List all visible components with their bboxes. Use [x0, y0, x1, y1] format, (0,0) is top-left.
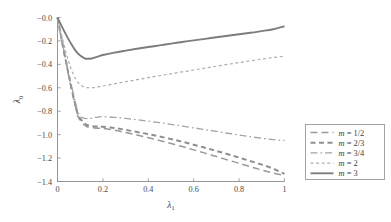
legend-label-2: m = 3/4 — [339, 149, 365, 158]
legend-label-value-2: = 3/4 — [345, 149, 365, 158]
y-tick-label-6: −1.2 — [37, 154, 52, 163]
legend-label-value-1: = 2/3 — [345, 139, 365, 148]
y-axis-title: λ0 — [12, 96, 24, 104]
legend-label-value-3: = 2 — [345, 159, 358, 168]
y-tick-label-0: −0.0 — [37, 14, 52, 23]
axis-ticks — [58, 18, 285, 182]
y-tick-label-5: −1.0 — [37, 131, 52, 140]
x-tick-label-2: 0.4 — [143, 185, 153, 194]
legend-label-1: m = 2/3 — [339, 139, 365, 148]
x-tick-label-4: 0.8 — [234, 185, 244, 194]
series-line-4 — [58, 18, 285, 59]
legend-label-value-4: = 3 — [345, 169, 358, 178]
series-line-3 — [58, 18, 285, 88]
x-tick-labels: 00.20.40.60.81 — [55, 185, 286, 194]
x-axis-title-text: λ1 — [166, 200, 174, 212]
y-axis-title-subscript: 0 — [17, 96, 24, 99]
axes-layer — [58, 18, 285, 182]
series-line-2 — [58, 18, 285, 141]
y-tick-label-7: −1.4 — [37, 178, 52, 187]
legend-label-3: m = 2 — [339, 159, 358, 168]
x-tick-label-0: 0 — [55, 185, 59, 194]
x-tick-label-5: 1 — [282, 185, 286, 194]
line-chart: 00.20.40.60.81 −0.0−0.2−0.4−0.6−0.8−1.0−… — [0, 0, 391, 222]
legend-label-value-0: = 1/2 — [345, 129, 365, 138]
legend[interactable]: m = 1/2m = 2/3m = 3/4m = 2m = 3 — [306, 125, 385, 180]
y-tick-label-3: −0.6 — [37, 84, 52, 93]
x-tick-label-3: 0.6 — [189, 185, 199, 194]
x-axis-title: λ1 — [166, 200, 174, 212]
figure-container: 00.20.40.60.81 −0.0−0.2−0.4−0.6−0.8−1.0−… — [0, 0, 391, 222]
y-tick-labels: −0.0−0.2−0.4−0.6−0.8−1.0−1.2−1.4 — [37, 14, 52, 187]
series-line-1 — [58, 18, 285, 174]
legend-label-4: m = 3 — [339, 169, 358, 178]
y-tick-label-1: −0.2 — [37, 37, 52, 46]
axis-spines — [58, 18, 285, 182]
x-axis-title-subscript: 1 — [171, 204, 174, 211]
legend-label-0: m = 1/2 — [339, 129, 365, 138]
series-line-0 — [58, 18, 285, 176]
series-layer — [58, 18, 285, 176]
x-tick-label-1: 0.2 — [98, 185, 108, 194]
y-axis-title-text: λ0 — [12, 96, 24, 104]
y-tick-label-4: −0.8 — [37, 107, 52, 116]
y-tick-label-2: −0.4 — [37, 60, 52, 69]
